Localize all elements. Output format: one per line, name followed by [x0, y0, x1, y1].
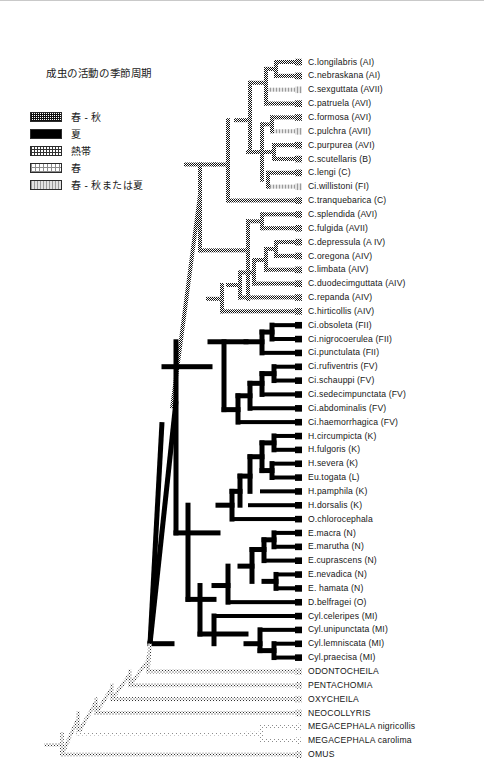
tip-branch [220, 309, 298, 313]
tip-label: H.circumpicta (K) [308, 431, 376, 441]
node-vertical [198, 583, 203, 636]
tip-label: Ci.willistoni (FI) [308, 181, 369, 191]
tip-marker [295, 142, 302, 149]
cladogram-svg [0, 1, 484, 775]
tip-marker [295, 668, 302, 675]
tip-label: E.macra (N) [308, 528, 356, 538]
tip-marker [295, 280, 302, 287]
tip-label: Eu.togata (L) [308, 472, 360, 482]
tip-label: C.splendida (AVI) [308, 209, 377, 219]
tip-branch [252, 282, 298, 286]
branch [226, 283, 242, 287]
tip-branch [236, 420, 298, 424]
tip-label: H.pamphila (K) [308, 486, 367, 496]
tip-branch [248, 503, 298, 507]
tip-branch [264, 268, 298, 272]
tip-label: ODONTOCHEILA [308, 666, 379, 676]
tip-marker [295, 516, 302, 523]
node-vertical [258, 627, 263, 653]
tip-marker [295, 433, 302, 440]
tip-label: MEGACEPHALA carolima [308, 735, 412, 745]
tip-label: C.formosa (AVI) [308, 112, 371, 122]
node-vertical [212, 614, 217, 647]
figure-page: 成虫の活動の季節周期 春 - 秋 夏 熱帯 春 春 - 秋または夏 [0, 0, 484, 775]
tip-marker [295, 460, 302, 467]
tip-label: E.cuprascens (N) [308, 555, 377, 565]
node-vertical [222, 339, 227, 412]
tip-label: H.dorsalis (K) [308, 500, 362, 510]
branch [262, 579, 279, 584]
tip-branch [260, 226, 298, 230]
tip-label: C.repanda (AIV) [308, 292, 372, 302]
tip-branch [264, 102, 298, 106]
outgroup-slant [62, 718, 78, 754]
tip-label: C.patruela (AVI) [308, 98, 371, 108]
node-vertical [246, 219, 250, 301]
tip-branch [260, 489, 298, 493]
tip-marker [295, 405, 302, 412]
branch [244, 641, 263, 646]
tip-branch [110, 697, 298, 701]
tip-marker [295, 696, 302, 703]
tip-marker [295, 239, 302, 246]
tip-marker [295, 225, 302, 232]
tip-label: E.nevadica (N) [308, 569, 367, 579]
tip-branch [260, 212, 298, 216]
tip-marker [295, 502, 302, 509]
outgroup-slant [130, 660, 148, 685]
node-vertical [266, 171, 270, 189]
tip-label: C.lengi (C) [308, 167, 351, 177]
tip-marker [295, 211, 302, 218]
tip-marker [295, 544, 302, 551]
tip-marker [295, 197, 302, 204]
tip-label: Ci.obsoleta (FII) [308, 320, 372, 330]
tip-label: MEGACEPHALA nigricollis [308, 721, 415, 731]
branch [212, 583, 231, 588]
outgroup-slant [78, 702, 96, 734]
tip-label: C.oregona (AIV) [308, 251, 372, 261]
tip-marker [295, 682, 302, 689]
branch [206, 297, 224, 301]
tip-branch [260, 351, 298, 355]
tip-label: C.depressula (A IV) [308, 237, 385, 247]
branch [208, 339, 249, 344]
tip-marker [295, 641, 302, 648]
branch [174, 530, 221, 535]
tip-label: Cyl.celeripes (MI) [308, 611, 378, 621]
tip-marker [295, 627, 302, 634]
tip-label: H.severa (K) [308, 458, 358, 468]
tip-marker [295, 557, 302, 564]
tip-label: Ci.schauppi (FV) [308, 375, 374, 385]
tip-label: Cyl.lemniscata (MI) [308, 638, 384, 648]
tip-marker [295, 156, 302, 163]
node-vertical [226, 118, 230, 202]
tip-label: OMUS [308, 749, 335, 759]
tip-marker [295, 488, 302, 495]
branch [234, 118, 252, 122]
tip-branch [266, 171, 298, 175]
tip-label: C.limbata (AIV) [308, 264, 369, 274]
tip-marker [295, 585, 302, 592]
tip-marker [295, 447, 302, 454]
tip-label: C.longilabris (AI) [308, 57, 374, 67]
tip-branch [230, 517, 298, 521]
tip-label: C.nebraskana (AI) [308, 70, 380, 80]
tip-label: C.pulchra (AVII) [308, 126, 371, 136]
tip-marker [295, 613, 302, 620]
tip-marker [295, 710, 302, 717]
tip-marker [295, 377, 302, 384]
tip-marker [295, 751, 302, 758]
tip-label: Cyl.praecisa (MI) [308, 652, 376, 662]
tip-marker [295, 267, 302, 274]
tip-marker [295, 87, 302, 94]
branch [216, 503, 235, 508]
tip-marker [295, 294, 302, 301]
tip-label: PENTACHOMIA [308, 680, 373, 690]
tip-branch [260, 725, 298, 729]
tip-branch [128, 683, 298, 687]
tip-marker [295, 419, 302, 426]
tree-branches [44, 59, 302, 758]
tip-label: H.fulgoris (K) [308, 444, 360, 454]
tip-branch [270, 115, 298, 119]
tip-branch [264, 88, 298, 92]
